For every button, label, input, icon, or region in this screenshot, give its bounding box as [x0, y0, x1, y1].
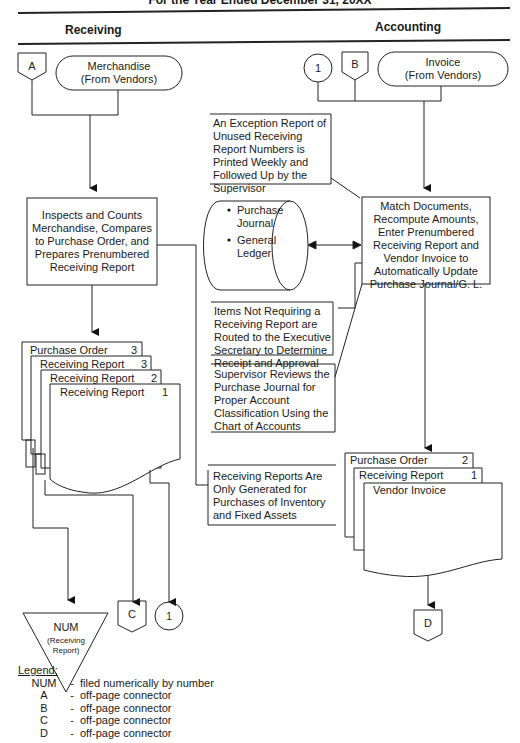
- db-item: General: [237, 234, 276, 246]
- connector-b: B: [351, 58, 358, 70]
- legend-row: A-off-page connector: [18, 689, 214, 702]
- doc-copy: 3: [131, 344, 137, 356]
- legend-row: NUM-filed numerically by number: [18, 677, 214, 690]
- doc-copy: 2: [462, 454, 468, 466]
- connector-a: A: [28, 60, 36, 72]
- header-rule-bottom: [18, 40, 510, 44]
- doc-copy: 3: [141, 358, 147, 370]
- doc-label: Vendor Invoice: [373, 484, 446, 496]
- doc-label: Purchase Order: [350, 454, 428, 466]
- connector-d: D: [424, 617, 432, 629]
- db-item: Journal: [237, 217, 273, 229]
- connector-1-top: 1: [315, 62, 321, 74]
- items-note: Items Not Requiring aReceiving Report ar…: [214, 305, 336, 370]
- num-label: NUM: [53, 621, 78, 633]
- exception-note: An Exception Report ofUnused ReceivingRe…: [213, 117, 333, 195]
- column-receiving: Receiving: [65, 23, 122, 37]
- legend-title: Legend:: [18, 664, 214, 677]
- doc-copy: 1: [471, 469, 477, 481]
- num-sub2: Report): [53, 646, 80, 655]
- column-accounting: Accounting: [375, 20, 441, 34]
- doc-label: Receiving Report: [50, 372, 134, 384]
- invoice-line2: (From Vendors): [405, 69, 481, 81]
- doc-label: Purchase Order: [30, 344, 108, 356]
- doc-label: Receiving Report: [60, 386, 144, 398]
- receiving-annotation: Receiving Reports AreOnly Generated forP…: [213, 470, 339, 522]
- invoice-line1: Invoice: [426, 56, 461, 68]
- legend-row: D-off-page connector: [18, 727, 214, 740]
- match-box-text: Match Documents,Recompute Amounts,Enter …: [362, 200, 490, 291]
- legend: Legend: NUM-filed numerically by number …: [18, 664, 214, 739]
- page-subtitle: For the Year Ended December 31, 20XX: [148, 0, 371, 7]
- doc-label: Receiving Report: [40, 358, 124, 370]
- doc-copy: 1: [162, 386, 168, 398]
- bullet-icon: [227, 238, 230, 241]
- merchandise-line1: Merchandise: [88, 60, 151, 72]
- bullet-icon: [227, 208, 230, 211]
- doc-label: Receiving Report: [359, 469, 443, 481]
- db-item: Purchase: [237, 204, 283, 216]
- connector-1-bottom: 1: [166, 611, 172, 622]
- db-item: Ledger: [237, 247, 272, 259]
- merchandise-line2: (From Vendors): [81, 73, 157, 85]
- supervisor-note: Supervisor Reviews thePurchase Journal f…: [214, 368, 336, 433]
- num-sub1: (Receiving: [47, 636, 85, 645]
- connector-c: C: [128, 608, 136, 620]
- legend-row: C-off-page connector: [18, 714, 214, 727]
- doc-copy: 2: [151, 372, 157, 384]
- inspect-box-text: Inspects and CountsMerchandise, Compares…: [27, 209, 157, 274]
- legend-row: B-off-page connector: [18, 702, 214, 715]
- header-rule-top: [18, 8, 510, 13]
